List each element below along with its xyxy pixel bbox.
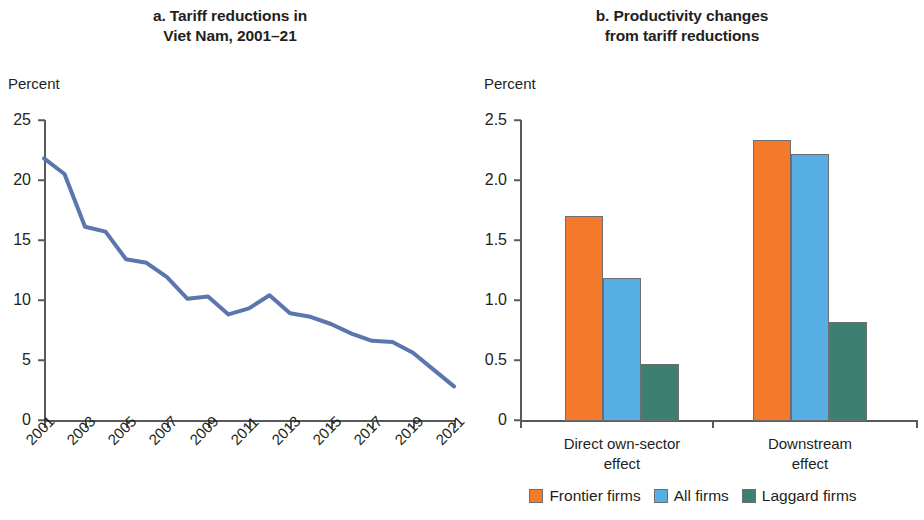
panel-a-y-tick-mark (38, 359, 45, 361)
panel-b-y-axis-line (520, 120, 522, 421)
panel-b-group-label-line2: effect (522, 454, 722, 474)
legend-item-label: Laggard firms (762, 487, 857, 505)
bar-laggard-firms-direct-own-sector (641, 364, 679, 421)
panel-b-group-label: Direct own-sectoreffect (522, 434, 722, 473)
panel-b-y-tick-label: 0.5 (462, 351, 507, 369)
panel-a-y-tick-mark (38, 179, 45, 181)
panel-b-y-tick-label: 1.5 (462, 231, 507, 249)
panel-a-y-tick-label: 5 (0, 351, 31, 369)
panel-a-line-path (44, 158, 454, 386)
bar-frontier-firms-downstream (753, 140, 791, 421)
panel-a-y-tick-label: 15 (0, 231, 31, 249)
panel-b-group-label-line1: Direct own-sector (564, 435, 681, 452)
bar-laggard-firms-downstream (829, 322, 867, 421)
panel-b-y-tick-mark (514, 239, 521, 241)
bar-frontier-firms-direct-own-sector (565, 216, 603, 421)
panel-a-y-tick-mark (38, 299, 45, 301)
panel-b-y-tick-mark (514, 179, 521, 181)
legend-swatch-icon (742, 489, 756, 503)
panel-b-x-tick-mark (520, 420, 522, 428)
panel-b-x-tick-mark (712, 420, 714, 428)
panel-a-plot-area: 0510152025200120032005200720092011201320… (0, 0, 462, 520)
legend-swatch-icon (529, 489, 543, 503)
panel-b-y-tick-mark (514, 119, 521, 121)
panel-a-y-tick-mark (38, 119, 45, 121)
panel-b-productivity-changes: b. Productivity changes from tariff redu… (462, 0, 924, 520)
panel-b-plot-area: 00.51.01.52.02.5Direct own-sectoreffectD… (462, 0, 924, 520)
panel-b-y-tick-label: 1.0 (462, 291, 507, 309)
legend-swatch-icon (654, 489, 668, 503)
panel-b-group-label-line1: Downstream (768, 435, 852, 452)
panel-b-y-tick-mark (514, 299, 521, 301)
panel-a-y-tick-label: 20 (0, 171, 31, 189)
chart-legend: Frontier firmsAll firmsLaggard firms (462, 487, 924, 505)
panel-b-y-tick-label: 2.0 (462, 171, 507, 189)
legend-item-label: All firms (674, 487, 729, 505)
panel-a-tariff-reductions: a. Tariff reductions in Viet Nam, 2001–2… (0, 0, 462, 520)
bar-all-firms-direct-own-sector (603, 278, 641, 421)
legend-item: All firms (654, 487, 729, 505)
panel-b-y-tick-label: 2.5 (462, 111, 507, 129)
panel-b-y-tick-label: 0 (462, 411, 507, 429)
panel-a-y-tick-mark (38, 239, 45, 241)
bar-all-firms-downstream (791, 154, 829, 421)
panel-b-x-tick-mark (916, 420, 918, 428)
panel-a-y-tick-label: 0 (0, 411, 31, 429)
panel-a-y-tick-label: 25 (0, 111, 31, 129)
legend-item-label: Frontier firms (549, 487, 640, 505)
panel-a-y-tick-label: 10 (0, 291, 31, 309)
legend-item: Laggard firms (742, 487, 857, 505)
legend-item: Frontier firms (529, 487, 640, 505)
panel-b-group-label: Downstreameffect (710, 434, 910, 473)
panel-b-y-tick-mark (514, 359, 521, 361)
panel-b-group-label-line2: effect (710, 454, 910, 474)
